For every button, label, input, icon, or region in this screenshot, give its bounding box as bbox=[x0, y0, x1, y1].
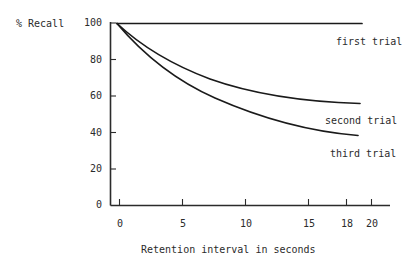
series-label-third-trial: third trial bbox=[330, 148, 396, 159]
x-tick-label-5: 5 bbox=[168, 218, 198, 229]
y-tick-label-80: 80 bbox=[68, 54, 102, 65]
y-tick-label-40: 40 bbox=[68, 127, 102, 138]
y-tick-label-20: 20 bbox=[68, 163, 102, 174]
series-label-second-trial: second trial bbox=[325, 115, 397, 126]
y-tick-label-60: 60 bbox=[68, 90, 102, 101]
chart-figure: % Recall 100 80 60 40 20 0 0 5 10 15 18 … bbox=[0, 0, 408, 264]
y-tick-label-0: 0 bbox=[68, 199, 102, 210]
y-tick-label-100: 100 bbox=[68, 17, 102, 28]
y-axis-title: % Recall bbox=[16, 18, 64, 29]
x-tick-label-10: 10 bbox=[231, 218, 261, 229]
series-line-third-trial bbox=[117, 24, 358, 136]
y-axis-ticks bbox=[111, 23, 117, 169]
x-tick-label-20: 20 bbox=[357, 218, 387, 229]
x-tick-label-0: 0 bbox=[105, 218, 135, 229]
x-axis-ticks bbox=[120, 199, 372, 206]
x-tick-label-15: 15 bbox=[294, 218, 324, 229]
x-axis-title: Retention interval in seconds bbox=[141, 244, 316, 255]
series-label-first-trial: first trial bbox=[336, 36, 402, 47]
series-line-second-trial bbox=[117, 24, 360, 104]
